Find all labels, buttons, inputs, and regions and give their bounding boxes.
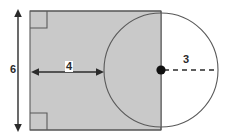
arrowhead-up	[14, 9, 22, 17]
height-label: 6	[9, 64, 17, 75]
circle-center-dot	[156, 65, 165, 74]
figure-canvas	[0, 0, 234, 140]
arrowhead-down	[14, 124, 22, 132]
radius-label: 3	[182, 54, 190, 65]
width-label: 4	[65, 61, 73, 72]
geometry-figure: 6 4 3	[0, 0, 234, 140]
radius-dimension-line	[156, 65, 218, 74]
